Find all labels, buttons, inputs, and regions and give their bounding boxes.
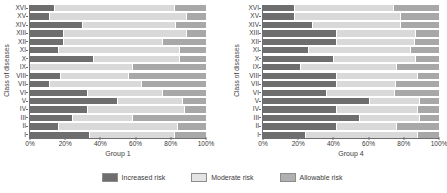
bar-segment: [419, 98, 439, 104]
y-tick-label: VII: [8, 81, 28, 87]
bar-segment: [87, 90, 161, 96]
bar-segment: [394, 90, 439, 96]
bar-segment: [410, 47, 439, 53]
bar-segment: [419, 115, 439, 121]
bar-segment: [132, 64, 207, 70]
bar-segment: [415, 30, 439, 36]
y-tick-label: XII: [241, 39, 261, 45]
bar-segment: [336, 106, 417, 112]
bar-row: [30, 132, 206, 138]
bar-segment: [415, 56, 439, 62]
y-tick-label: IX: [241, 64, 261, 70]
y-tick-label: I: [8, 132, 28, 138]
y-tick-label: VI: [241, 90, 261, 96]
y-tick-label: XIV: [241, 22, 261, 28]
y-tick-label: XVI: [241, 5, 261, 11]
bar-segment: [359, 115, 419, 121]
bar-segment: [30, 106, 87, 112]
bar-segment: [396, 64, 439, 70]
bar-row: [263, 47, 439, 53]
bar-segment: [184, 106, 206, 112]
bar-row: [263, 132, 439, 138]
x-axis-ticks-left: 0%20%40%60%80%100%: [30, 140, 206, 150]
bar-row: [30, 106, 206, 112]
bar-segment: [30, 132, 89, 138]
bar-segment: [395, 81, 440, 87]
bar-segment: [417, 132, 439, 138]
bar-segment: [263, 5, 294, 11]
bar-segment: [294, 13, 399, 19]
bar-segment: [333, 56, 416, 62]
bar-segment: [263, 98, 369, 104]
y-tick-label: XV: [8, 13, 28, 19]
bar-segment: [308, 47, 410, 53]
x-axis-spine-right: [262, 138, 439, 139]
bar-segment: [30, 98, 117, 104]
x-tick-label: 80%: [164, 140, 177, 147]
bar-segment: [58, 47, 179, 53]
bar-segment: [174, 5, 206, 11]
bar-segment: [30, 90, 87, 96]
bar-segment: [263, 22, 312, 28]
chart-panel-group-4: Class of diseases XVIXVXIVXIIIXIIXIXIXVI…: [215, 0, 444, 165]
bar-segment: [162, 39, 207, 45]
bar-segment: [58, 123, 177, 129]
bar-row: [263, 5, 439, 11]
legend-item: Moderate risk: [191, 173, 253, 182]
bar-segment: [141, 81, 206, 87]
x-axis-ticks-right: 0%20%40%60%80%100%: [263, 140, 439, 150]
y-tick-label: VIII: [8, 73, 28, 79]
bar-segment: [175, 22, 206, 28]
y-tick-label: XIII: [8, 30, 28, 36]
bar-segment: [93, 56, 179, 62]
x-tick-label: 40%: [94, 140, 107, 147]
bar-segment: [305, 132, 417, 138]
x-tick-label: 0%: [25, 140, 34, 147]
bar-segment: [30, 13, 49, 19]
plot-area-right: [263, 5, 439, 138]
bar-segment: [393, 5, 439, 11]
bar-segment: [30, 5, 54, 11]
bar-segment: [312, 22, 400, 28]
y-tick-label: II: [241, 123, 261, 129]
bar-segment: [174, 132, 206, 138]
bar-segment: [400, 22, 439, 28]
bar-row: [30, 64, 206, 70]
bar-segment: [30, 56, 93, 62]
bar-row: [263, 22, 439, 28]
y-tick-label: IV: [241, 106, 261, 112]
bar-segment: [30, 39, 63, 45]
bar-segment: [30, 30, 63, 36]
bar-segment: [263, 106, 336, 112]
legend-swatch: [191, 173, 207, 182]
bar-segment: [63, 30, 186, 36]
bar-segment: [186, 13, 206, 19]
bar-segment: [30, 115, 72, 121]
bar-segment: [117, 98, 182, 104]
bar-segment: [336, 39, 414, 45]
plot-area-left: [30, 5, 206, 138]
bar-row: [30, 115, 206, 121]
bar-segment: [179, 47, 206, 53]
bar-row: [30, 123, 206, 129]
bar-segment: [30, 73, 60, 79]
y-tick-label: X: [241, 56, 261, 62]
x-axis-title-left: Group 1: [30, 150, 206, 157]
bar-segment: [336, 30, 415, 36]
x-axis-spine-left: [29, 138, 206, 139]
x-tick-label: 20%: [59, 140, 72, 147]
bar-segment: [263, 90, 326, 96]
bar-row: [263, 13, 439, 19]
bar-segment: [400, 13, 439, 19]
y-tick-label: XVI: [8, 5, 28, 11]
bar-segment: [263, 81, 336, 87]
x-tick-label: 60%: [362, 140, 375, 147]
bar-segment: [263, 123, 336, 129]
bar-segment: [263, 115, 359, 121]
bar-row: [263, 39, 439, 45]
bar-segment: [417, 73, 439, 79]
y-tick-label: XV: [241, 13, 261, 19]
y-tick-label: VIII: [241, 73, 261, 79]
bar-row: [263, 123, 439, 129]
legend-label: Allowable risk: [300, 174, 343, 181]
